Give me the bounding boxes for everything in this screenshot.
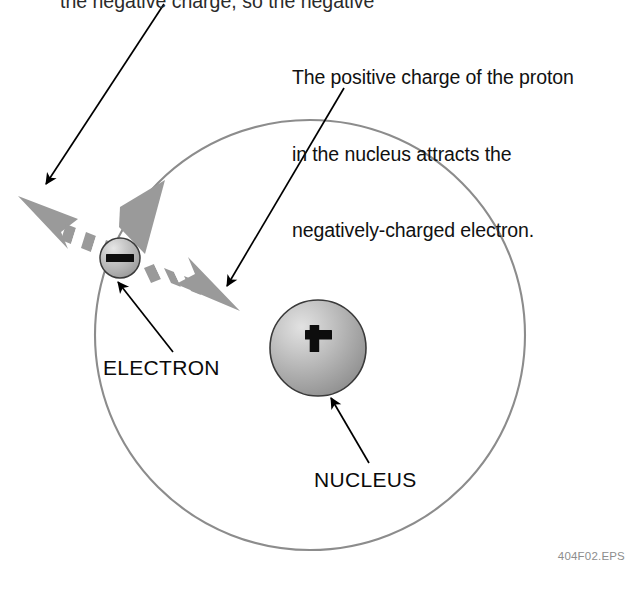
caption-line-3: negatively-charged electron.	[292, 218, 574, 244]
force-arrow-lower-right	[144, 257, 240, 311]
caption-block: The positive charge of the proton in the…	[292, 14, 574, 295]
nucleus-sphere	[270, 300, 366, 396]
caption-line-2: in the nucleus attracts the	[292, 142, 574, 168]
top-cropped-text: the negative charge, so the negative	[60, 0, 374, 15]
source-file-id: 404F02.EPS	[558, 550, 625, 562]
nucleus-label: NUCLEUS	[314, 468, 416, 492]
caption-line-1: The positive charge of the proton	[292, 65, 574, 91]
electron-label: ELECTRON	[103, 356, 220, 380]
nucleus-label-leader-line	[331, 398, 369, 463]
electron-label-leader-line	[118, 282, 173, 352]
minus-charge-glyph	[106, 254, 134, 262]
electron-sphere	[100, 238, 140, 278]
figure-canvas: the negative charge, so the negative The…	[0, 0, 637, 594]
callout-to-electron-line	[46, 4, 164, 184]
